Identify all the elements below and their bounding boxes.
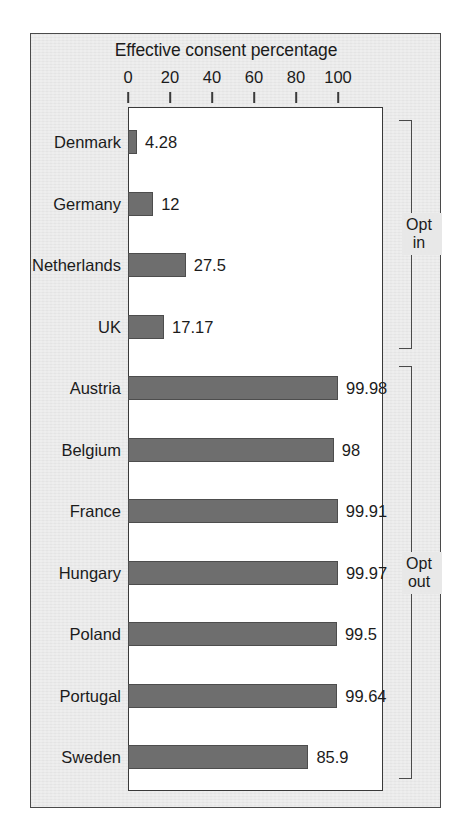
bar-value-netherlands: 27.5 <box>194 256 226 275</box>
category-label-sweden: Sweden <box>61 748 121 767</box>
category-label-portugal: Portugal <box>60 686 121 705</box>
group-label-line: in <box>398 234 440 252</box>
bar-denmark <box>128 130 137 154</box>
bar-austria <box>128 376 338 400</box>
bar-value-denmark: 4.28 <box>145 133 177 152</box>
bar-value-belgium: 98 <box>342 440 360 459</box>
x-tick-label-20: 20 <box>161 68 179 87</box>
chart-figure: Effective consent percentage 02040608010… <box>0 0 470 838</box>
bar-value-poland: 99.5 <box>345 625 377 644</box>
category-label-hungary: Hungary <box>59 563 121 582</box>
bar-belgium <box>128 438 334 462</box>
bar-sweden <box>128 745 308 769</box>
bar-portugal <box>128 684 337 708</box>
bar-poland <box>128 622 337 646</box>
x-tick-mark-100 <box>337 92 339 103</box>
x-tick-mark-80 <box>295 92 297 103</box>
bar-value-sweden: 85.9 <box>316 748 348 767</box>
bar-value-france: 99.91 <box>346 502 387 521</box>
bar-hungary <box>128 561 338 585</box>
bar-uk <box>128 315 164 339</box>
bar-value-austria: 99.98 <box>346 379 387 398</box>
bar-value-portugal: 99.64 <box>345 686 386 705</box>
category-label-germany: Germany <box>53 194 121 213</box>
bar-value-germany: 12 <box>161 194 179 213</box>
x-tick-mark-20 <box>169 92 171 103</box>
group-label-line: out <box>398 573 440 591</box>
category-label-austria: Austria <box>70 379 121 398</box>
group-label-line: Opt <box>398 555 440 573</box>
chart-title: Effective consent percentage <box>98 40 354 61</box>
category-label-netherlands: Netherlands <box>32 256 121 275</box>
bar-value-uk: 17.17 <box>172 317 213 336</box>
x-tick-label-80: 80 <box>287 68 305 87</box>
category-label-poland: Poland <box>70 625 121 644</box>
bar-france <box>128 499 338 523</box>
group-label-line: Opt <box>398 216 440 234</box>
category-label-belgium: Belgium <box>61 440 121 459</box>
x-tick-label-100: 100 <box>324 68 352 87</box>
bar-germany <box>128 192 153 216</box>
x-tick-mark-0 <box>127 92 129 103</box>
bar-netherlands <box>128 253 186 277</box>
x-tick-mark-60 <box>253 92 255 103</box>
bar-value-hungary: 99.97 <box>346 563 387 582</box>
category-label-france: France <box>70 502 121 521</box>
category-label-denmark: Denmark <box>54 133 121 152</box>
x-tick-label-0: 0 <box>123 68 132 87</box>
x-tick-label-60: 60 <box>245 68 263 87</box>
x-tick-label-40: 40 <box>203 68 221 87</box>
group-label-opt-out: Optout <box>398 555 440 591</box>
x-tick-mark-40 <box>211 92 213 103</box>
category-label-uk: UK <box>98 317 121 336</box>
group-label-opt-in: Optin <box>398 216 440 252</box>
